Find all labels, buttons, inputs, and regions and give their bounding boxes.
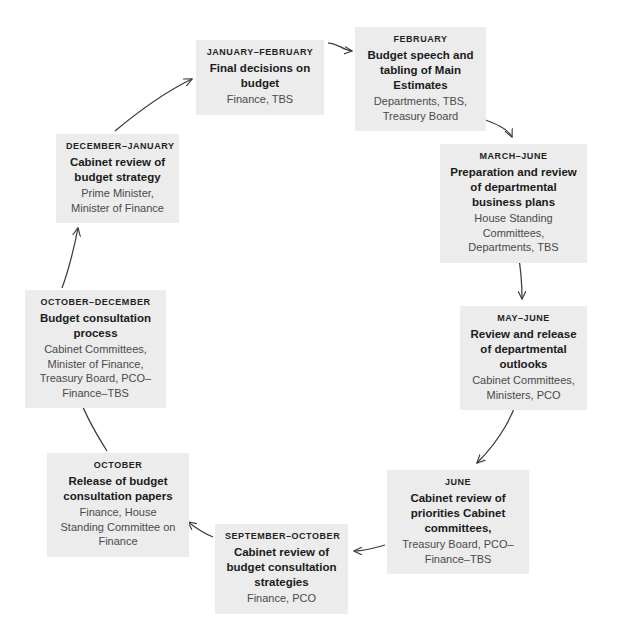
node-actors: Treasury Board, PCO–Finance–TBS <box>397 537 519 566</box>
node-title: Release of budget consultation papers <box>57 474 179 504</box>
node-title: Cabinet review of budget consultation st… <box>225 545 338 591</box>
arrow-sepoct-to-oct <box>188 522 213 537</box>
node-actors: Cabinet Committees, Ministers, PCO <box>470 373 577 402</box>
node-period: DECEMBER–JANUARY <box>66 141 169 153</box>
node-actors: Finance, TBS <box>206 92 314 107</box>
node-period: SEPTEMBER–OCTOBER <box>225 531 338 543</box>
node-title: Final decisions on budget <box>206 61 314 91</box>
node-period: OCTOBER–DECEMBER <box>35 297 156 309</box>
node-actors: Cabinet Committees, Minister of Finance,… <box>35 342 156 400</box>
node-period: JUNE <box>397 477 519 489</box>
node-period: OCTOBER <box>57 460 179 472</box>
node-actors: Departments, TBS, Treasury Board <box>365 94 476 123</box>
node-title: Budget consultation process <box>35 311 156 341</box>
node-title: Preparation and review of departmental b… <box>450 165 577 211</box>
node-actors: Prime Minister, Minister of Finance <box>66 186 169 215</box>
node-actors: House Standing Committees, Departments, … <box>450 211 577 255</box>
node-october: OCTOBER Release of budget consultation p… <box>47 453 189 557</box>
node-period: MARCH–JUNE <box>450 151 577 163</box>
node-period: MAY–JUNE <box>470 313 577 325</box>
node-february: FEBRUARY Budget speech and tabling of Ma… <box>355 27 486 131</box>
arrow-decjan-to-janfeb <box>115 79 192 131</box>
node-october-december: OCTOBER–DECEMBER Budget consultation pro… <box>25 290 166 408</box>
node-september-october: SEPTEMBER–OCTOBER Cabinet review of budg… <box>215 524 348 614</box>
budget-cycle-diagram: JANUARY–FEBRUARY Final decisions on budg… <box>0 0 621 621</box>
node-january-february: JANUARY–FEBRUARY Final decisions on budg… <box>196 40 324 115</box>
arrow-octdec-to-decjan <box>62 228 78 288</box>
node-actors: Finance, House Standing Committee on Fin… <box>57 505 179 549</box>
node-title: Cabinet review of budget strategy <box>66 155 169 185</box>
node-title: Review and release of departmental outlo… <box>470 327 577 373</box>
node-may-june: MAY–JUNE Review and release of departmen… <box>460 306 587 410</box>
node-title: Budget speech and tabling of Main Estima… <box>365 48 476 94</box>
node-period: FEBRUARY <box>365 34 476 46</box>
node-period: JANUARY–FEBRUARY <box>206 47 314 59</box>
node-december-january: DECEMBER–JANUARY Cabinet review of budge… <box>56 134 179 223</box>
arrow-janfeb-to-feb <box>328 43 352 51</box>
node-actors: Finance, PCO <box>225 591 338 606</box>
node-march-june: MARCH–JUNE Preparation and review of dep… <box>440 144 587 263</box>
arrow-jun-to-sepoct <box>354 545 385 551</box>
node-june: JUNE Cabinet review of priorities Cabine… <box>387 470 529 574</box>
node-title: Cabinet review of priorities Cabinet com… <box>397 491 519 537</box>
